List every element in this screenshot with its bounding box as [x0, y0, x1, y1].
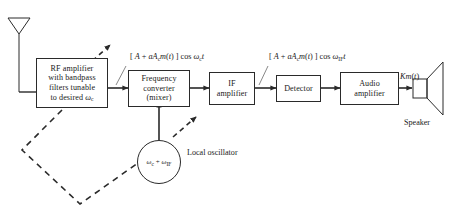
ganged-tuning-link	[22, 110, 145, 204]
frequency-converter-line-2: converter	[143, 84, 174, 94]
detector-label: Detector	[284, 84, 313, 94]
frequency-converter-line-1: Frequency	[141, 74, 176, 84]
rf-amplifier-line-1: RF amplifier	[51, 64, 94, 74]
local-oscillator-label-line-1: Local	[187, 148, 205, 157]
rf-amplifier-line-3: filters tunable	[49, 83, 95, 93]
if-amplifier-line-2: amplifier	[217, 89, 248, 99]
block-audio-amplifier[interactable]: Audio amplifier	[340, 72, 399, 105]
receiver-block-diagram: RF amplifier with bandpass filters tunab…	[0, 0, 452, 219]
block-local-oscillator[interactable]: ωc + ωIF	[137, 140, 181, 184]
tuning-arrow-oscillator	[173, 117, 196, 137]
local-oscillator-label: Local oscillator	[187, 148, 238, 158]
rf-amplifier-line-2: with bandpass	[48, 73, 95, 83]
if-amplifier-line-1: IF	[228, 79, 235, 89]
block-rf-amplifier[interactable]: RF amplifier with bandpass filters tunab…	[36, 58, 108, 108]
antenna-icon	[8, 18, 36, 92]
speaker-label: Speaker	[404, 118, 430, 127]
block-detector[interactable]: Detector	[276, 75, 321, 102]
speaker-icon	[413, 62, 443, 115]
signal-label-rf: [ A + aAcm(t) ] cos ωct	[130, 52, 204, 61]
leader-rf-signal	[116, 66, 126, 85]
local-oscillator-label-line-2: oscillator	[207, 148, 237, 157]
block-if-amplifier[interactable]: IF amplifier	[209, 72, 255, 105]
local-oscillator-frequency: ωc + ωIF	[147, 158, 172, 166]
frequency-converter-line-3: (mixer)	[147, 93, 172, 103]
audio-amplifier-line-2: amplifier	[354, 89, 385, 99]
signal-label-audio: Km(t)	[400, 72, 419, 81]
audio-amplifier-line-1: Audio	[359, 79, 380, 89]
signal-label-if: [ A + aAcm(t) ] cos ωIFt	[269, 52, 346, 61]
leader-if-signal	[259, 66, 268, 85]
block-frequency-converter[interactable]: Frequency converter (mixer)	[128, 70, 190, 107]
diagram-lines-layer	[0, 0, 452, 219]
rf-amplifier-line-4: to desired ωc	[50, 93, 93, 103]
